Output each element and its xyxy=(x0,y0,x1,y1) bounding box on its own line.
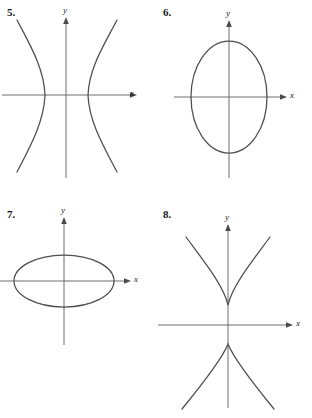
x-axis-arrow-icon xyxy=(286,322,293,328)
x-axis-label: x xyxy=(290,91,294,100)
x-axis-label: x xyxy=(130,89,134,98)
y-axis-label: y xyxy=(225,213,229,222)
y-axis-arrow-icon xyxy=(61,217,67,224)
problem-panel-6: 6. x y xyxy=(156,0,312,209)
x-axis-label: x xyxy=(134,275,138,284)
x-axis-arrow-icon xyxy=(124,278,131,284)
worksheet-page: 5. x y 6. x y xyxy=(0,0,312,418)
x-axis-label: x xyxy=(296,319,300,328)
graph-6 xyxy=(156,0,312,209)
problem-panel-5: 5. x y xyxy=(0,0,156,209)
y-axis-arrow-icon xyxy=(226,20,232,27)
hyperbola-right-branch xyxy=(88,20,117,172)
y-axis-label: y xyxy=(63,6,67,15)
y-axis-label: y xyxy=(61,206,65,215)
y-axis-arrow-icon xyxy=(225,224,231,231)
graph-7 xyxy=(0,200,156,409)
problem-panel-7: 7. x y xyxy=(0,200,156,409)
graph-5 xyxy=(0,0,156,209)
y-axis-arrow-icon xyxy=(63,17,69,24)
x-axis-arrow-icon xyxy=(280,94,287,100)
graph-8 xyxy=(156,200,312,409)
problem-panel-8: 8. x y xyxy=(156,200,312,409)
hyperbola-left-branch xyxy=(17,20,45,172)
y-axis-label: y xyxy=(226,9,230,18)
